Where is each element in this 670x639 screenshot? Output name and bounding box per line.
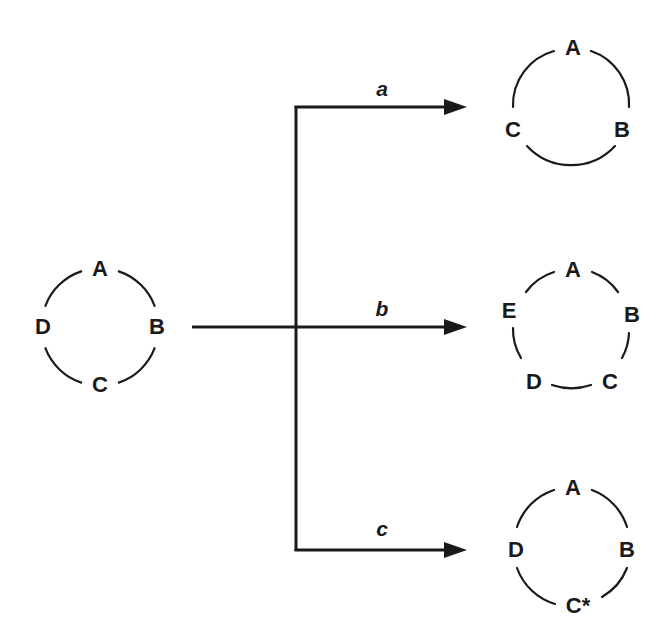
branch-c-arrowhead bbox=[444, 542, 467, 558]
branch-b-arrowhead bbox=[444, 319, 467, 335]
ring-c-arc-cd bbox=[517, 568, 555, 604]
ring-b-node-a: A bbox=[565, 257, 581, 282]
ring-c-arc-ab bbox=[592, 490, 627, 527]
ring-c-node-b: B bbox=[619, 537, 635, 562]
ring-c-arc-da bbox=[517, 490, 554, 527]
source-node-c: C bbox=[92, 372, 108, 397]
ring-b-node-b: B bbox=[624, 302, 640, 327]
ring-b-node-e: E bbox=[502, 298, 517, 323]
ring-c-arc-bc bbox=[602, 568, 627, 597]
ring-a-arc-ab bbox=[591, 51, 629, 107]
ring-b-arc-de bbox=[513, 328, 521, 358]
ring-a-node-a: A bbox=[565, 35, 581, 60]
source-arc-ab bbox=[119, 271, 155, 305]
branch-connectors bbox=[192, 99, 467, 558]
branch-a-label: a bbox=[376, 77, 388, 100]
ring-a-arc-bc bbox=[527, 146, 615, 165]
ring-a-node-c: C bbox=[505, 117, 521, 142]
ring-b-arc-ea bbox=[526, 272, 554, 292]
source-node-d: D bbox=[35, 314, 51, 339]
source-node-b: B bbox=[149, 314, 165, 339]
result-ring-c: A B C* D bbox=[508, 475, 635, 618]
source-arc-cd bbox=[45, 348, 81, 382]
branch-a-arrowhead bbox=[444, 99, 467, 115]
result-ring-a: A B C bbox=[505, 35, 630, 165]
ring-c-node-c-star: C* bbox=[566, 593, 591, 618]
ring-b-node-c: C bbox=[602, 369, 618, 394]
branch-c-label: c bbox=[376, 517, 388, 540]
source-ring: A B C D bbox=[35, 256, 165, 397]
source-node-a: A bbox=[92, 256, 108, 281]
ring-c-node-a: A bbox=[565, 475, 581, 500]
ring-b-arc-ab bbox=[592, 272, 618, 292]
result-ring-b: A B C D E bbox=[502, 257, 640, 394]
source-arc-bc bbox=[119, 348, 155, 382]
ring-b-arc-bc bbox=[622, 333, 629, 358]
ring-a-arc-ca bbox=[513, 51, 554, 107]
ring-a-node-b: B bbox=[614, 117, 630, 142]
diagram-canvas: A B C D a b c A B C A B C bbox=[0, 0, 670, 639]
branch-b-label: b bbox=[376, 297, 389, 320]
ring-b-node-d: D bbox=[526, 369, 542, 394]
ring-b-arc-cd bbox=[552, 385, 591, 388]
source-arc-da bbox=[45, 271, 81, 305]
ring-c-node-d: D bbox=[508, 537, 524, 562]
